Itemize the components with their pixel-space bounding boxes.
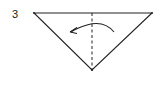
fold-diagram <box>0 0 160 109</box>
paper-triangle <box>34 13 152 70</box>
